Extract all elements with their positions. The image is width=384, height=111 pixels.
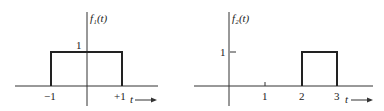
arrow-head-icon xyxy=(151,98,157,103)
tick-label-3: 3 xyxy=(334,91,340,102)
xlabel-f2: t xyxy=(345,94,348,105)
pulse-f2 xyxy=(302,52,337,86)
tick-label-1: 1 xyxy=(262,91,268,102)
plot-f2 xyxy=(194,12,373,106)
tick-label-neg1: −1 xyxy=(44,91,56,102)
tick-label-2: 2 xyxy=(299,91,305,102)
level-label-f2: 1 xyxy=(220,47,226,58)
plot-f1 xyxy=(15,12,158,106)
tick-label-pos1: +1 xyxy=(114,91,126,102)
xlabel-f1: t xyxy=(130,94,133,105)
arrow-head-icon xyxy=(367,98,373,103)
ylabel-f2: f₂(t) xyxy=(232,13,249,24)
pulse-diagrams xyxy=(0,0,384,111)
level-label-f1: 1 xyxy=(76,40,82,51)
ylabel-f1: f₁(t) xyxy=(90,13,107,24)
